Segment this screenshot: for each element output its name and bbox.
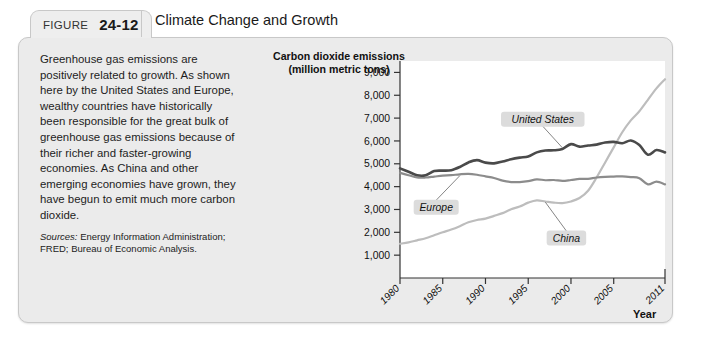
figure-title: Climate Change and Growth — [155, 12, 338, 28]
figure-tab-divider — [141, 11, 142, 37]
x-axis-label: Year — [633, 308, 656, 320]
y-axis-tick-label: 7,000 — [364, 113, 390, 124]
x-axis-tick-label: 2005 — [591, 282, 616, 307]
figure-sources: Sources: Energy Information Administrati… — [40, 231, 240, 256]
figure-description: Greenhouse gas emissions are positively … — [40, 52, 240, 255]
figure-label-word: FIGURE — [43, 19, 88, 31]
callout-label: Europe — [419, 202, 453, 213]
figure-number: 24-12 — [99, 16, 138, 33]
figure-tab: FIGURE 24-12 — [30, 10, 152, 38]
figure-container: FIGURE 24-12 Climate Change and Growth G… — [0, 0, 707, 346]
description-paragraph: Greenhouse gas emissions are positively … — [40, 52, 240, 224]
y-axis-tick-label: 8,000 — [364, 90, 390, 101]
y-axis-tick-label: 9,000 — [364, 67, 390, 78]
y-axis-tick-label: 5,000 — [364, 158, 390, 169]
callout-label: China — [553, 233, 580, 244]
y-axis-tick-label: 4,000 — [364, 181, 390, 192]
x-axis-tick-label: 1995 — [506, 282, 530, 306]
y-axis-tick-label: 1,000 — [364, 250, 390, 261]
x-axis-tick-label: 2000 — [548, 282, 573, 307]
y-axis-tick-label: 2,000 — [364, 227, 390, 238]
x-axis-tick-label: 1985 — [420, 282, 444, 306]
y-axis-tick-label: 3,000 — [364, 204, 390, 215]
x-axis-tick-label: 1980 — [378, 282, 402, 306]
x-axis-tick-label: 1990 — [463, 282, 487, 306]
sources-label: Sources: — [40, 231, 78, 242]
x-axis-tick-label: 2011 — [642, 283, 666, 307]
y-axis-tick-label: 6,000 — [364, 136, 390, 147]
callout-label: United States — [512, 114, 574, 125]
emissions-line-chart: 1,0002,0003,0004,0005,0006,0007,0008,000… — [255, 47, 675, 307]
